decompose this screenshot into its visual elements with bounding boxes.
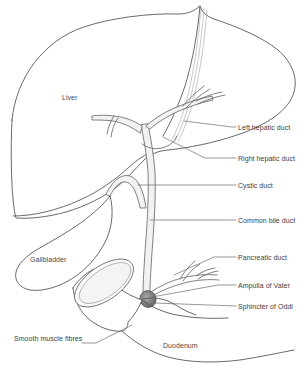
sphincter-of-oddi-blob — [138, 288, 158, 309]
label-sphincter-of-oddi: Sphincter of Oddi — [238, 303, 293, 311]
leader-pancreatic-duct — [174, 257, 236, 275]
duodenum-lower-wall — [122, 331, 294, 362]
label-liver: Liver — [62, 94, 78, 101]
label-duodenum: Duodenum — [163, 342, 198, 349]
pancreatic-duct-branch-2 — [183, 264, 200, 281]
label-ampulla-of-vater: Ampulla of Vater — [238, 282, 291, 290]
label-cystic-duct: Cystic duct — [238, 182, 273, 190]
leader-sphincter-of-oddi — [154, 303, 236, 306]
label-gallbladder: Gallbladder — [30, 256, 67, 263]
label-pancreatic-duct: Pancreatic duct — [238, 254, 287, 261]
pancreatic-duct-main-lower — [152, 280, 219, 296]
label-common-bile-duct: Common bile duct — [238, 217, 295, 224]
label-right-hepatic-duct: Right hepatic duct — [238, 155, 295, 163]
anatomy-diagram: Liver Gallbladder Duodenum Left hepatic … — [0, 0, 308, 372]
biliary-system-figure: Liver Gallbladder Duodenum Left hepatic … — [0, 0, 308, 372]
label-smooth-muscle-fibres: Smooth muscle fibres — [14, 335, 83, 342]
leader-ampulla-of-vater — [152, 285, 236, 297]
label-left-hepatic-duct: Left hepatic duct — [238, 124, 290, 132]
